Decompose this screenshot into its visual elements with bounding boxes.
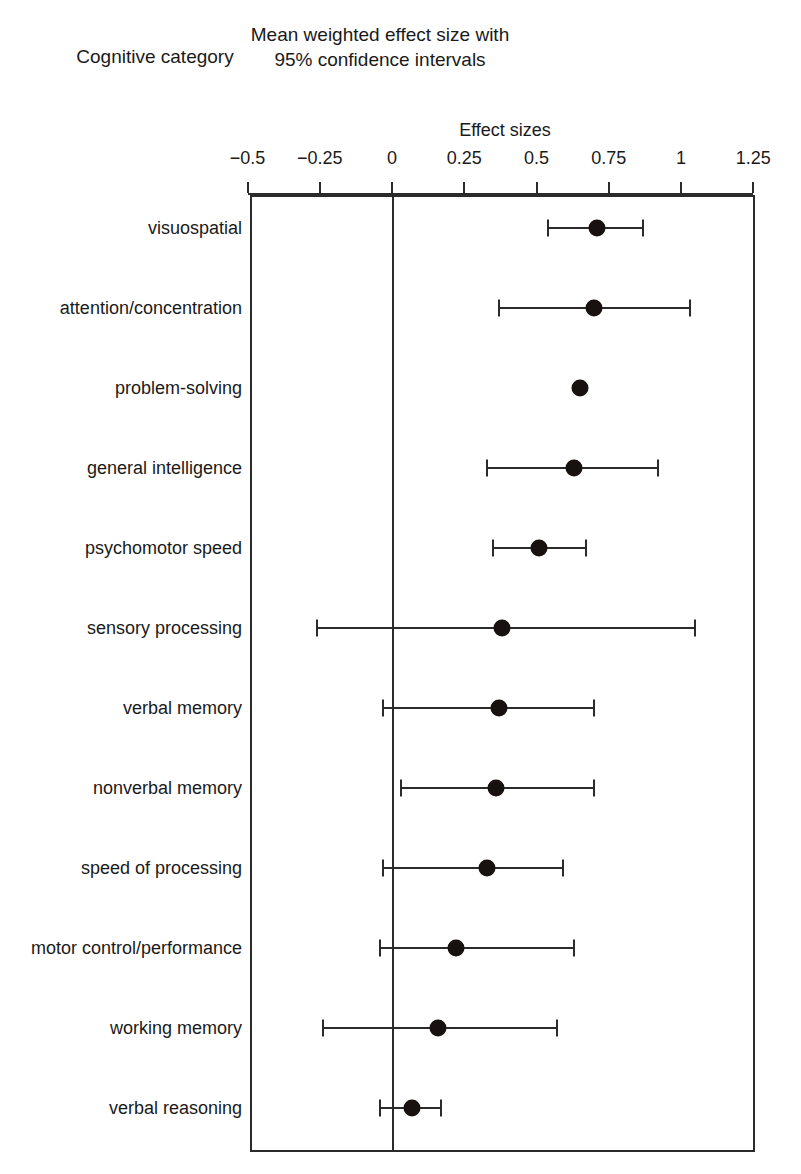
category-label: speed of processing bbox=[20, 857, 242, 880]
x-tick-mark bbox=[536, 182, 538, 193]
x-tick-mark bbox=[608, 182, 610, 193]
category-label: sensory processing bbox=[20, 617, 242, 640]
effect-size-marker bbox=[430, 1020, 447, 1037]
chart-title: Mean weighted effect size with 95% confi… bbox=[240, 22, 520, 72]
effect-size-marker bbox=[490, 700, 507, 717]
confidence-interval-cap bbox=[440, 1100, 442, 1117]
category-label: motor control/performance bbox=[20, 937, 242, 960]
confidence-interval-cap bbox=[400, 780, 402, 797]
effect-size-marker bbox=[589, 220, 606, 237]
category-column-header: Cognitive category bbox=[60, 44, 250, 69]
effect-size-marker bbox=[404, 1100, 421, 1117]
x-tick-mark bbox=[247, 182, 249, 193]
effect-size-marker bbox=[586, 300, 603, 317]
effect-size-marker bbox=[531, 540, 548, 557]
confidence-interval-cap bbox=[642, 220, 644, 237]
x-tick-mark bbox=[752, 182, 754, 193]
category-label: attention/concentration bbox=[20, 297, 242, 320]
x-axis-tick-labels: −0.5−0.2500.250.50.7511.25 bbox=[0, 148, 801, 172]
category-label: verbal reasoning bbox=[20, 1097, 242, 1120]
x-tick-mark bbox=[319, 182, 321, 193]
confidence-interval-cap bbox=[379, 940, 381, 957]
confidence-interval-cap bbox=[573, 940, 575, 957]
confidence-interval-cap bbox=[689, 300, 691, 317]
confidence-interval-cap bbox=[492, 540, 494, 557]
effect-size-marker bbox=[571, 380, 588, 397]
confidence-interval-cap bbox=[694, 620, 696, 637]
x-tick-label: 1.25 bbox=[736, 148, 771, 169]
confidence-interval-cap bbox=[562, 860, 564, 877]
x-axis-title: Effect sizes bbox=[405, 118, 605, 143]
confidence-interval-line bbox=[383, 867, 562, 869]
confidence-interval-cap bbox=[498, 300, 500, 317]
confidence-interval-cap bbox=[316, 620, 318, 637]
confidence-interval-cap bbox=[593, 780, 595, 797]
category-label: general intelligence bbox=[20, 457, 242, 480]
confidence-interval-cap bbox=[486, 460, 488, 477]
confidence-interval-cap bbox=[657, 460, 659, 477]
effect-size-marker bbox=[488, 780, 505, 797]
effect-size-marker bbox=[493, 620, 510, 637]
x-tick-mark bbox=[463, 182, 465, 193]
confidence-interval-cap bbox=[382, 700, 384, 717]
category-label: psychomotor speed bbox=[20, 537, 242, 560]
x-tick-label: 0 bbox=[387, 148, 397, 169]
effect-size-marker bbox=[447, 940, 464, 957]
confidence-interval-cap bbox=[593, 700, 595, 717]
effect-size-marker bbox=[479, 860, 496, 877]
x-tick-label: 0.25 bbox=[447, 148, 482, 169]
confidence-interval-line bbox=[380, 947, 574, 949]
forest-plot-figure: Cognitive category Mean weighted effect … bbox=[0, 0, 801, 1174]
category-label: nonverbal memory bbox=[20, 777, 242, 800]
x-tick-mark bbox=[680, 182, 682, 193]
x-tick-label: 0.75 bbox=[591, 148, 626, 169]
confidence-interval-cap bbox=[585, 540, 587, 557]
category-label: verbal memory bbox=[20, 697, 242, 720]
zero-reference-line bbox=[392, 197, 394, 1150]
plot-area-frame bbox=[250, 195, 755, 1152]
confidence-interval-cap bbox=[556, 1020, 558, 1037]
confidence-interval-cap bbox=[547, 220, 549, 237]
x-tick-label: −0.25 bbox=[297, 148, 343, 169]
category-label: visuospatial bbox=[20, 217, 242, 240]
x-tick-label: 1 bbox=[676, 148, 686, 169]
confidence-interval-line bbox=[383, 707, 594, 709]
category-label: problem-solving bbox=[20, 377, 242, 400]
confidence-interval-cap bbox=[382, 860, 384, 877]
confidence-interval-cap bbox=[322, 1020, 324, 1037]
category-label: working memory bbox=[20, 1017, 242, 1040]
effect-size-marker bbox=[566, 460, 583, 477]
x-tick-label: 0.5 bbox=[524, 148, 549, 169]
confidence-interval-cap bbox=[379, 1100, 381, 1117]
x-tick-label: −0.5 bbox=[230, 148, 266, 169]
x-tick-mark bbox=[391, 182, 393, 193]
